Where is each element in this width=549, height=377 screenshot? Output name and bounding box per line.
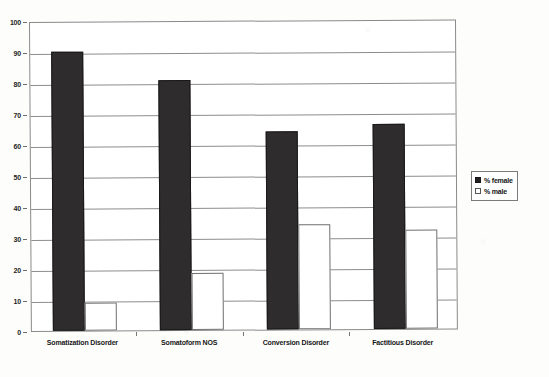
y-tick-mark	[23, 301, 27, 302]
x-tick-mark	[349, 332, 350, 336]
y-tick-mark	[23, 146, 27, 147]
gridline	[30, 51, 455, 55]
y-tick-mark	[23, 239, 27, 240]
legend-item: % female	[475, 175, 513, 185]
legend-item: % male	[475, 186, 513, 196]
y-axis: 0102030405060708090100	[0, 22, 27, 332]
x-tick-label: Somatization Disorder	[47, 339, 118, 346]
y-tick-mark	[23, 22, 27, 23]
x-tick-label: Conversion Disorder	[263, 339, 329, 346]
x-axis: Somatization DisorderSomatoform NOSConve…	[29, 336, 456, 356]
y-tick-label: 0	[17, 329, 21, 336]
y-tick-mark	[23, 53, 27, 54]
y-tick-mark	[23, 115, 27, 116]
plot-area	[29, 19, 458, 332]
y-tick-label: 60	[14, 143, 21, 150]
y-tick-mark	[23, 332, 27, 333]
y-tick-label: 100	[10, 19, 21, 26]
bar-male	[85, 303, 117, 331]
y-tick-label: 50	[14, 174, 21, 181]
bar-female	[372, 124, 405, 329]
bar-male	[298, 224, 331, 330]
hollow-square-icon	[475, 188, 481, 194]
legend-item-label: % female	[484, 177, 513, 184]
chart-legend: % female% male	[471, 171, 518, 201]
y-tick-mark	[23, 270, 27, 271]
x-tick-mark	[136, 332, 137, 336]
legend-item-label: % male	[484, 188, 507, 195]
x-tick-label: Factitious Disorder	[372, 339, 433, 346]
y-tick-label: 20	[14, 267, 21, 274]
y-tick-label: 90	[14, 50, 21, 57]
y-tick-label: 80	[14, 81, 21, 88]
y-tick-mark	[23, 177, 27, 178]
y-tick-label: 10	[14, 298, 21, 305]
filled-square-icon	[475, 177, 481, 183]
bar-chart: 0102030405060708090100 Somatization Diso…	[0, 0, 549, 377]
bar-female	[266, 131, 299, 330]
y-tick-label: 70	[14, 112, 21, 119]
y-tick-label: 40	[14, 205, 21, 212]
gridline	[30, 82, 455, 86]
bar-female	[52, 52, 86, 331]
gridline	[31, 113, 456, 117]
x-tick-mark	[243, 332, 244, 336]
y-tick-label: 30	[14, 236, 21, 243]
bar-female	[158, 80, 192, 330]
y-tick-mark	[23, 208, 27, 209]
x-tick-label: Somatoform NOS	[161, 339, 217, 346]
bar-male	[405, 229, 438, 328]
y-tick-mark	[23, 84, 27, 85]
bar-male	[192, 272, 224, 330]
